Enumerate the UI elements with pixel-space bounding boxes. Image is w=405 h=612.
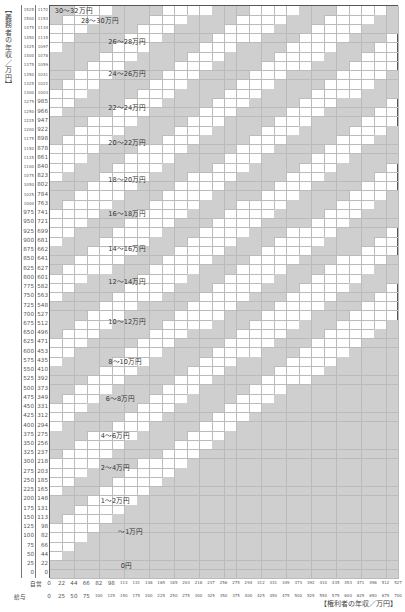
y-tick-self-employed: 392 [30, 374, 48, 383]
x-tick-self-employed: 373 [292, 580, 304, 585]
y-tick-self-employed: 453 [30, 347, 48, 356]
band-label: 16〜18万円 [107, 208, 147, 218]
x-tick-self-employed: 527 [392, 580, 404, 585]
y-tick-self-employed: 1115 [30, 33, 48, 42]
y-tick-self-employed: 966 [30, 107, 48, 116]
y-tick-self-employed: 98 [30, 522, 48, 531]
y-tick-self-employed: 66 [30, 541, 48, 550]
band-label: 12〜14万円 [107, 276, 147, 286]
y-tick-self-employed: 898 [30, 134, 48, 143]
x-tick-salary: 325 [205, 593, 217, 598]
x-tick-salary: 425 [255, 593, 267, 598]
x-tick-self-employed: 471 [354, 580, 366, 585]
x-tick-self-employed: 218 [192, 580, 204, 585]
y-tick-self-employed: 1041 [30, 70, 48, 79]
x-tick-self-employed: 453 [342, 580, 354, 585]
y-tick-self-employed: 784 [30, 190, 48, 199]
band-label: 8〜10万円 [107, 356, 143, 366]
table-cell [212, 570, 225, 580]
y-tick-self-employed: 878 [30, 144, 48, 153]
y-tick-self-employed: 802 [30, 180, 48, 189]
x-tick-salary: 525 [305, 593, 317, 598]
x-tick-salary: 475 [280, 593, 292, 598]
x-tick-self-employed: 148 [142, 580, 154, 585]
y-tick-self-employed: 44 [30, 550, 48, 559]
x-tick-salary: 400 [242, 593, 254, 598]
y-tick-self-employed: 741 [30, 208, 48, 217]
y-tick-self-employed: 113 [30, 513, 48, 522]
table-cell [225, 570, 238, 580]
x-axis-title: 【権利者の年収／万円】 [320, 598, 397, 608]
table-cell [374, 570, 387, 580]
x-tick-salary: 75 [80, 593, 92, 599]
support-table-grid: 0円〜1万円1〜2万円2〜4万円4〜6万円6〜8万円8〜10万円10〜12万円1… [49, 5, 398, 578]
y-tick-self-employed: 349 [30, 393, 48, 402]
x-tick-self-employed: 165 [155, 580, 167, 585]
y-tick-self-employed: 947 [30, 116, 48, 125]
band-label: 0円 [120, 560, 133, 570]
table-cell [75, 570, 88, 580]
y-axis-self-employed-ticks: 1172115311341115109710781059104110221003… [30, 5, 48, 578]
y-tick-self-employed: 471 [30, 337, 48, 346]
y-tick-self-employed: 512 [30, 319, 48, 328]
x-tick-self-employed: 256 [217, 580, 229, 585]
y-axis-title: 【義務者の年収／万円】 [2, 6, 12, 89]
x-tick-self-employed: 496 [367, 580, 379, 585]
y-tick-self-employed: 922 [30, 125, 48, 134]
y-tick-self-employed: 699 [30, 227, 48, 236]
band-label: 〜1万円 [117, 526, 144, 536]
band-label: 20〜22万円 [107, 137, 147, 147]
x-tick-self-employed: 392 [305, 580, 317, 585]
y-tick-self-employed: 563 [30, 291, 48, 300]
x-tick-self-employed: 185 [167, 580, 179, 585]
y-tick-self-employed: 410 [30, 365, 48, 374]
table-cell [50, 570, 63, 580]
table-cell [200, 570, 213, 580]
x-tick-self-employed: 0 [43, 580, 55, 586]
band-label: 2〜4万円 [100, 462, 131, 472]
x-tick-self-employed: 410 [317, 580, 329, 585]
table-cell [137, 570, 150, 580]
y-tick-self-employed: 82 [30, 531, 48, 540]
x-tick-self-employed: 82 [93, 580, 105, 586]
table-cell [112, 570, 125, 580]
y-tick-self-employed: 1097 [30, 42, 48, 51]
table-cell [274, 570, 287, 580]
y-tick-self-employed: 823 [30, 171, 48, 180]
y-tick-self-employed: 1172 [30, 5, 48, 14]
x-tick-salary: 300 [192, 593, 204, 598]
x-tick-self-employed: 66 [80, 580, 92, 586]
x-tick-self-employed: 237 [205, 580, 217, 585]
x-tick-salary: 500 [292, 593, 304, 598]
band-label: 30〜32万円 [54, 5, 94, 15]
table-cell [299, 570, 312, 580]
x-tick-self-employed: 512 [379, 580, 391, 585]
x-tick-salary: 50 [68, 593, 80, 599]
x-tick-self-employed: 275 [230, 580, 242, 585]
x-tick-salary: 375 [230, 593, 242, 598]
band-label: 14〜16万円 [107, 243, 147, 253]
y-tick-self-employed: 165 [30, 485, 48, 494]
band-label: 10〜12万円 [107, 316, 147, 326]
y-tick-self-employed: 1059 [30, 60, 48, 69]
table-cell [324, 570, 337, 580]
x-tick-salary: 0 [43, 593, 55, 599]
x-tick-self-employed: 131 [130, 580, 142, 585]
y-tick-self-employed: 294 [30, 421, 48, 430]
y-tick-self-employed: 373 [30, 384, 48, 393]
y-tick-self-employed: 985 [30, 97, 48, 106]
table-cell [162, 570, 175, 580]
y-tick-self-employed: 548 [30, 301, 48, 310]
y-tick-self-employed: 185 [30, 476, 48, 485]
y-tick-self-employed: 681 [30, 236, 48, 245]
y-tick-self-employed: 0 [30, 568, 48, 577]
y-tick-self-employed: 582 [30, 282, 48, 291]
x-tick-self-employed: 435 [329, 580, 341, 585]
x-tick-self-employed: 98 [105, 580, 117, 586]
x-tick-self-employed: 294 [242, 580, 254, 585]
x-tick-salary: 450 [267, 593, 279, 598]
y-tick-self-employed: 861 [30, 153, 48, 162]
band-label: 6〜8万円 [105, 393, 136, 403]
x-tick-salary: 350 [217, 593, 229, 598]
y-tick-self-employed: 148 [30, 494, 48, 503]
